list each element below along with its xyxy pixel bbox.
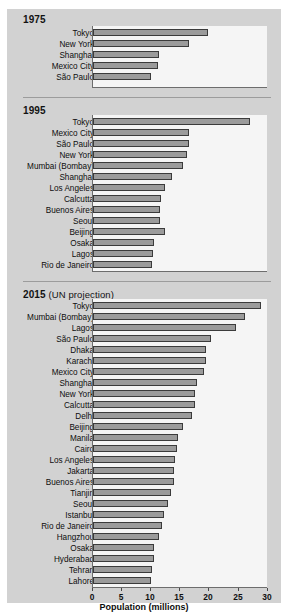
category-label: New York [9, 391, 94, 399]
bar-row [93, 324, 267, 331]
x-axis-title: Population (millions) [7, 602, 281, 612]
category-label: São Paulo [21, 74, 94, 82]
bar-beijing [93, 228, 165, 235]
panel-title-2015-year: 2015 [23, 289, 46, 300]
bar-row [93, 467, 267, 474]
bar-istanbul [93, 511, 164, 518]
panel-divider-2 [23, 281, 271, 282]
bar-tokyo [93, 302, 261, 309]
bar-row [93, 401, 267, 408]
plot-area-2015 [92, 299, 267, 588]
category-label: Beijing [9, 229, 94, 237]
bar-row [93, 335, 267, 342]
bar-cairo [93, 445, 177, 452]
bar-row [93, 390, 267, 397]
category-label: Los Angeles [9, 457, 94, 465]
category-label: Lagos [9, 251, 94, 259]
bar-shanghai [93, 173, 172, 180]
bar-row [93, 228, 267, 235]
bar-row [93, 511, 267, 518]
bar-seoul [93, 217, 160, 224]
category-label: Osaka [9, 545, 94, 553]
category-label: New York [21, 41, 94, 49]
bar-row [93, 261, 267, 268]
category-label: Cairo [9, 446, 94, 454]
bar-mexico-city [93, 368, 204, 375]
bar-row [93, 250, 267, 257]
bar-manila [93, 434, 178, 441]
bars-2015 [93, 299, 267, 587]
bar-row [93, 73, 267, 80]
bar-row [93, 313, 267, 320]
category-label: Delhi [9, 413, 94, 421]
category-label: Mexico City [9, 369, 94, 377]
bar-row [93, 412, 267, 419]
bar-row [93, 302, 267, 309]
bars-1995 [93, 115, 267, 271]
bar-lagos [93, 324, 236, 331]
bar-row [93, 173, 267, 180]
bar-karachi [93, 357, 206, 364]
category-label: Hyderabad [9, 556, 94, 564]
bar-calcutta [93, 401, 195, 408]
panel-title-1995: 1995 [23, 105, 46, 116]
category-label: Seoul [9, 218, 94, 226]
bar-row [93, 423, 267, 430]
bar-new-york [93, 40, 189, 47]
x-tick [238, 588, 239, 591]
panel-title-1975: 1975 [23, 14, 46, 25]
x-tick [179, 588, 180, 591]
category-label: Rio de Janeiro [9, 262, 94, 270]
bar-row [93, 239, 267, 246]
bar-row [93, 489, 267, 496]
x-tick-label: 15 [174, 592, 183, 602]
bar-row [93, 544, 267, 551]
bar-row [93, 500, 267, 507]
panel-title-1995-year: 1995 [23, 105, 46, 116]
bar-shanghai [93, 51, 159, 58]
bar-row [93, 51, 267, 58]
category-label: Lagos [9, 325, 94, 333]
category-label: Mexico City [9, 130, 94, 138]
bar-row [93, 206, 267, 213]
category-label: Shanghai [9, 174, 94, 182]
category-labels-2015: Tokyo Mumbai (Bombay) Lagos São Paulo Dh… [9, 301, 94, 585]
bar-row [93, 217, 267, 224]
bar-tehran [93, 566, 152, 573]
category-label: Tokyo [9, 303, 94, 311]
category-label: Lahore [9, 578, 94, 586]
bar-tokyo [93, 118, 250, 125]
category-label: Osaka [9, 240, 94, 248]
x-tick [267, 588, 268, 591]
category-label: Mumbai (Bombay) [9, 314, 94, 322]
bar-osaka [93, 544, 154, 551]
bar-row [93, 478, 267, 485]
bar-row [93, 40, 267, 47]
bar-mumbai [93, 162, 183, 169]
bar-jakarta [93, 467, 174, 474]
category-labels-1975: Tokyo New York Shanghai Mexico City São … [21, 28, 94, 86]
bar-mexico-city [93, 129, 189, 136]
category-label: Mumbai (Bombay) [9, 163, 94, 171]
bar-row [93, 357, 267, 364]
category-labels-1995: Tokyo Mexico City São Paulo New York Mum… [9, 117, 94, 269]
bar-hangzhou [93, 533, 159, 540]
bar-mumbai [93, 313, 245, 320]
category-label: Shanghai [9, 380, 94, 388]
bar-row [93, 195, 267, 202]
category-label: Tokyo [9, 119, 94, 127]
category-label: Jakarta [9, 468, 94, 476]
category-label: Rio de Janeiro [9, 523, 94, 531]
bar-sao-paulo [93, 73, 151, 80]
bar-row [93, 118, 267, 125]
bar-hyderabad [93, 555, 154, 562]
bar-sao-paulo [93, 140, 189, 147]
category-label: Los Angeles [9, 185, 94, 193]
bar-row [93, 577, 267, 584]
bar-row [93, 184, 267, 191]
bar-tianjin [93, 489, 171, 496]
category-label: Seoul [9, 501, 94, 509]
category-label: São Paulo [9, 336, 94, 344]
bar-new-york [93, 151, 187, 158]
bar-delhi [93, 412, 192, 419]
